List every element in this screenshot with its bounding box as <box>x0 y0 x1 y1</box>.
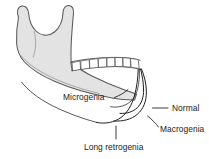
mandible-bone-group <box>16 6 136 100</box>
label-long-retrogenia: Long retrogenia <box>84 142 144 152</box>
label-microgenia: Microgenia <box>63 92 105 102</box>
tooth <box>98 58 107 68</box>
tooth <box>90 59 99 69</box>
tooth <box>123 58 131 67</box>
label-normal: Normal <box>172 103 199 113</box>
mandible-chin-profile-figure: Microgenia Normal Macrogenia Long retrog… <box>0 0 209 159</box>
leader-line-macrogenia <box>148 116 159 127</box>
tooth <box>107 58 115 67</box>
tooth <box>72 61 81 71</box>
mandible-diagram-svg: Microgenia Normal Macrogenia Long retrog… <box>0 0 209 159</box>
tooth-row-group <box>71 57 141 71</box>
label-macrogenia: Macrogenia <box>160 124 205 134</box>
tooth <box>115 58 123 67</box>
labels-group: Microgenia Normal Macrogenia Long retrog… <box>63 92 205 152</box>
tooth <box>81 60 90 70</box>
tooth <box>131 58 140 68</box>
